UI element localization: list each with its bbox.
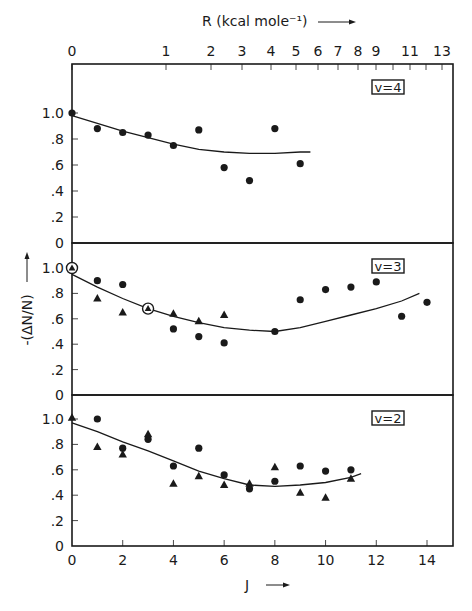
r-tick-label: 6 [314, 43, 323, 59]
j-tick-label: 2 [118, 552, 127, 568]
y-tick-label: .8 [51, 131, 64, 147]
j-axis-title: J [244, 577, 249, 593]
circle-marker [271, 328, 278, 335]
figure: 01234567891113R (kcal mole⁻¹) 0.2.4.6.81… [0, 0, 472, 611]
fit-curve [72, 423, 361, 487]
triangle-marker [169, 309, 177, 317]
y-axis-label: -(ΔN/N) [19, 294, 35, 345]
top-axis-r: 01234567891113R (kcal mole⁻¹) [68, 13, 451, 70]
circle-marker [195, 333, 202, 340]
triangle-marker [119, 450, 127, 458]
y-tick-label: .8 [51, 285, 64, 301]
circle-marker [246, 177, 253, 184]
triangle-marker [195, 472, 203, 480]
triangle-marker [119, 308, 127, 316]
up-arrow-icon [25, 252, 30, 259]
circle-marker [119, 281, 126, 288]
j-tick-label: 0 [68, 552, 77, 568]
circle-marker [94, 415, 101, 422]
triangle-marker [144, 430, 152, 438]
j-tick-label: 4 [169, 552, 178, 568]
right-arrow-icon [349, 20, 356, 25]
y-axis-title: -(ΔN/N) [19, 252, 35, 346]
circle-marker [297, 296, 304, 303]
panel-label: v=2 [375, 411, 402, 426]
circle-marker [398, 313, 405, 320]
y-tick-label: 0 [55, 235, 64, 251]
triangle-marker [93, 442, 101, 450]
right-arrow-icon [283, 583, 290, 588]
circle-marker [94, 125, 101, 132]
r-tick-label: 7 [334, 43, 343, 59]
triangle-marker [220, 310, 228, 318]
triangle-marker [245, 479, 253, 487]
panel-label: v=3 [375, 259, 402, 274]
panel-label: v=4 [375, 80, 402, 95]
r-axis-title: R (kcal mole⁻¹) [202, 13, 308, 29]
chart-svg: 01234567891113R (kcal mole⁻¹) 0.2.4.6.81… [0, 0, 472, 611]
y-tick-label: .2 [51, 362, 64, 378]
y-tick-label: .4 [51, 336, 64, 352]
j-tick-label: 8 [270, 552, 279, 568]
circle-marker [347, 466, 354, 473]
y-tick-label: .8 [51, 436, 64, 452]
circle-marker [221, 164, 228, 171]
circle-marker [373, 278, 380, 285]
circle-marker [423, 299, 430, 306]
r-tick-label: 11 [401, 43, 419, 59]
r-tick-label: 5 [292, 43, 301, 59]
y-tick-label: .4 [51, 183, 64, 199]
triangle-marker [296, 488, 304, 496]
j-tick-label: 6 [220, 552, 229, 568]
j-tick-label: 10 [317, 552, 335, 568]
circle-marker [347, 283, 354, 290]
triangle-marker [68, 413, 76, 421]
circle-marker [322, 467, 329, 474]
r-tick-label: 1 [162, 43, 171, 59]
triangle-marker [195, 317, 203, 325]
y-tick-label: .4 [51, 487, 64, 503]
circle-marker [170, 325, 177, 332]
circle-marker [297, 462, 304, 469]
fit-curve [72, 116, 310, 154]
bottom-axis-j: 02468101214J [68, 540, 436, 593]
circle-marker [144, 132, 151, 139]
triangle-marker [220, 481, 228, 489]
y-tick-label: 1.0 [42, 260, 64, 276]
r-tick-label: 4 [267, 43, 276, 59]
triangle-marker [321, 493, 329, 501]
circle-marker [94, 277, 101, 284]
circle-marker [170, 142, 177, 149]
panel-v-3: 0.2.4.6.81.0v=3 [42, 243, 453, 403]
triangle-marker [93, 294, 101, 302]
triangle-marker [271, 463, 279, 471]
circle-marker [170, 462, 177, 469]
circle-marker [271, 478, 278, 485]
circle-marker [195, 126, 202, 133]
r-tick-label: 2 [207, 43, 216, 59]
r-tick-label: 9 [372, 43, 381, 59]
j-tick-label: 12 [367, 552, 385, 568]
y-tick-label: 0 [55, 387, 64, 403]
r-tick-label: 3 [238, 43, 247, 59]
j-tick-label: 14 [418, 552, 436, 568]
circle-marker [195, 445, 202, 452]
circle-marker [271, 125, 278, 132]
circle-marker [68, 109, 75, 116]
r-tick-label: 8 [354, 43, 363, 59]
y-tick-label: 0 [55, 538, 64, 554]
y-tick-label: .6 [51, 157, 64, 173]
circle-marker [221, 339, 228, 346]
circle-marker [221, 471, 228, 478]
panel-v-2: 0.2.4.6.81.0v=2 [42, 395, 453, 554]
y-tick-label: .2 [51, 209, 64, 225]
circle-marker [297, 160, 304, 167]
r-tick-label: 0 [68, 43, 77, 59]
circle-marker [322, 286, 329, 293]
y-tick-label: 1.0 [42, 105, 64, 121]
circle-marker [119, 129, 126, 136]
y-tick-label: .6 [51, 311, 64, 327]
y-tick-label: 1.0 [42, 411, 64, 427]
panel-v-4: 0.2.4.6.81.0v=4 [42, 64, 453, 251]
triangle-marker [169, 479, 177, 487]
